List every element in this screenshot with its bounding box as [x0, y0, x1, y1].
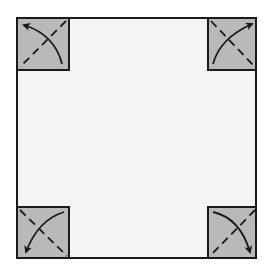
corner-flap-bottom-right	[208, 207, 256, 258]
corner-flap-bottom-left	[17, 207, 69, 258]
origami-fold-diagram	[0, 0, 273, 275]
corner-flap-top-left	[17, 18, 69, 70]
diagram-canvas	[0, 0, 273, 275]
corner-flap-top-right	[208, 18, 256, 70]
